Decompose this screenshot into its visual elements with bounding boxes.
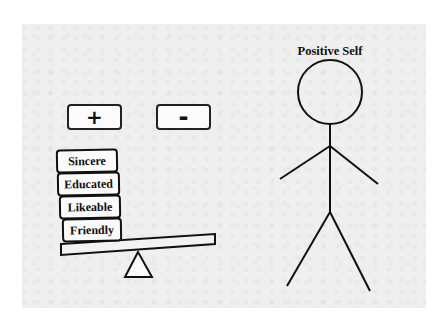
minus-box: -: [156, 104, 211, 130]
figure-title: Positive Self: [290, 44, 370, 59]
figure-right-arm: [330, 146, 378, 184]
trait-box-friendly: Friendly: [62, 217, 122, 242]
figure-head: [298, 60, 362, 124]
figure-left-leg: [287, 212, 330, 286]
stick-figure: [280, 60, 378, 291]
trait-box-likeable: Likeable: [59, 194, 121, 219]
plus-box: +: [67, 104, 122, 130]
fulcrum-triangle: [125, 252, 152, 277]
figure-right-leg: [330, 212, 370, 291]
trait-box-sincere: Sincere: [56, 148, 118, 173]
figure-left-arm: [280, 146, 330, 179]
trait-box-educated: Educated: [57, 171, 120, 196]
